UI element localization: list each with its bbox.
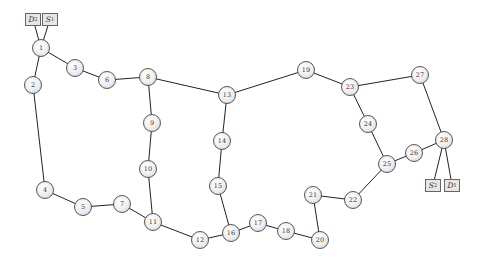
node-label: 15: [214, 182, 222, 190]
terminal-subscript: 2: [434, 182, 437, 188]
node-label: 13: [223, 91, 231, 99]
node-18: 18: [277, 222, 295, 240]
node-label: 26: [410, 149, 418, 157]
node-16: 16: [222, 224, 240, 242]
terminal-subscript: 2: [34, 16, 37, 22]
edge-23-27: [350, 75, 420, 87]
node-label: 6: [105, 76, 109, 84]
node-11: 11: [144, 213, 162, 231]
node-label: 9: [150, 119, 154, 127]
node-19: 19: [297, 61, 315, 79]
node-17: 17: [249, 214, 267, 232]
edge-13-19: [227, 70, 306, 95]
node-label: 17: [254, 219, 262, 227]
node-27: 27: [411, 66, 429, 84]
terminal-S2: S2: [425, 179, 441, 192]
node-label: 28: [440, 136, 448, 144]
node-2: 2: [24, 76, 42, 94]
node-26: 26: [405, 144, 423, 162]
terminal-D2: D2: [25, 13, 41, 26]
node-label: 4: [43, 186, 47, 194]
node-12: 12: [191, 231, 209, 249]
node-label: 18: [282, 227, 290, 235]
node-9: 9: [143, 114, 161, 132]
node-label: 23: [346, 83, 354, 91]
edge-8-13: [148, 77, 227, 95]
node-label: 14: [218, 137, 226, 145]
node-6: 6: [98, 71, 116, 89]
node-25: 25: [378, 155, 396, 173]
node-label: 8: [146, 73, 150, 81]
node-label: 21: [309, 191, 317, 199]
node-label: 20: [316, 236, 324, 244]
node-label: 19: [302, 66, 310, 74]
edge-layer: [0, 0, 480, 266]
terminal-subscript: 1: [51, 16, 54, 22]
network-diagram: 1234567891011121314151617181920212223242…: [0, 0, 480, 266]
node-label: 16: [227, 229, 235, 237]
node-10: 10: [139, 160, 157, 178]
node-7: 7: [113, 195, 131, 213]
node-15: 15: [209, 177, 227, 195]
node-14: 14: [213, 132, 231, 150]
node-4: 4: [36, 181, 54, 199]
node-label: 12: [196, 236, 204, 244]
node-23: 23: [341, 78, 359, 96]
node-label: 22: [349, 196, 357, 204]
node-label: 1: [39, 44, 43, 52]
node-8: 8: [139, 68, 157, 86]
terminal-subscript: 1: [453, 182, 456, 188]
node-28: 28: [435, 131, 453, 149]
node-5: 5: [74, 198, 92, 216]
node-label: 10: [144, 165, 152, 173]
node-label: 27: [416, 71, 424, 79]
node-24: 24: [359, 115, 377, 133]
node-label: 24: [364, 120, 372, 128]
node-3: 3: [66, 59, 84, 77]
edge-2-4: [33, 85, 45, 190]
terminal-D1: D1: [444, 179, 460, 192]
node-label: 5: [81, 203, 85, 211]
node-label: 25: [383, 160, 391, 168]
node-label: 7: [120, 200, 124, 208]
edge-27-28: [420, 75, 444, 140]
node-label: 3: [73, 64, 77, 72]
node-1: 1: [32, 39, 50, 57]
node-21: 21: [304, 186, 322, 204]
node-label: 2: [31, 81, 35, 89]
node-22: 22: [344, 191, 362, 209]
node-label: 11: [149, 218, 157, 226]
node-13: 13: [218, 86, 236, 104]
node-20: 20: [311, 231, 329, 249]
terminal-S1: S1: [42, 13, 58, 26]
